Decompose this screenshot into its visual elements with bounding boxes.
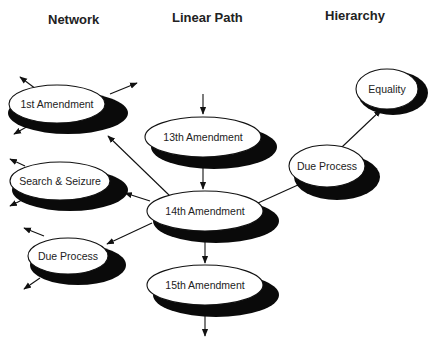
arrow-14th-to-search-seizure	[125, 193, 150, 201]
arrow-due-process-out-downleft	[24, 278, 40, 289]
node-1st-amendment: 1st Amendment	[8, 85, 128, 134]
heading-network: Network	[48, 12, 100, 27]
heading-hierarchy: Hierarchy	[325, 8, 386, 23]
node-label: 14th Amendment	[165, 205, 244, 217]
node-14th-amendment: 14th Amendment	[147, 191, 279, 243]
node-label: 1st Amendment	[21, 98, 94, 110]
arrow-search-out-upleft	[10, 159, 25, 166]
arrow-14th-to-due-process-network	[107, 223, 152, 244]
node-label: Due Process	[297, 160, 357, 172]
node-13th-amendment: 13th Amendment	[145, 117, 277, 169]
node-label: Search & Seizure	[19, 175, 101, 187]
node-due-process-hierarchy: Due Process	[289, 145, 380, 200]
heading-linear-path: Linear Path	[172, 10, 243, 25]
node-due-process-network: Due Process	[28, 238, 126, 285]
node-label: 15th Amendment	[165, 279, 244, 291]
node-equality: Equality	[356, 69, 428, 115]
node-15th-amendment: 15th Amendment	[147, 265, 279, 317]
amendment-relationship-diagram: Network Linear Path Hierarchy 1st Amendm…	[0, 0, 445, 346]
node-label: Due Process	[38, 250, 98, 262]
arrow-1st-out-upright	[110, 83, 137, 94]
arrow-search-out-downleft	[10, 200, 22, 206]
node-label: Equality	[368, 83, 406, 95]
node-search-seizure: Search & Seizure	[10, 162, 128, 211]
arrow-due-process-to-equality	[342, 110, 381, 147]
node-label: 13th Amendment	[163, 131, 242, 143]
arrow-due-process-out-upleft	[24, 228, 44, 236]
